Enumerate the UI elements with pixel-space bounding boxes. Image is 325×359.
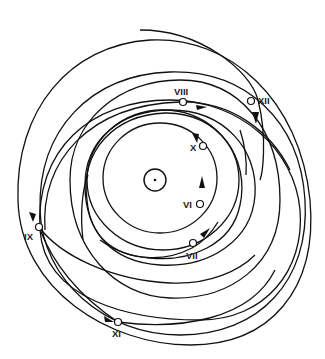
central-body-dot: [154, 179, 157, 182]
orbit-outer-2: [40, 72, 305, 335]
marker-x-circle: [200, 143, 207, 150]
orbit-medium-2: [40, 100, 301, 320]
marker-ix-circle: [36, 224, 43, 231]
marker-ix-label: IX: [24, 231, 34, 242]
arrow-vi: [199, 176, 205, 188]
marker-vii: VII: [186, 240, 198, 262]
orbit-ix-xi: [39, 227, 275, 324]
marker-xii: XII: [248, 95, 270, 106]
marker-xii-label: XII: [258, 95, 270, 106]
orbit-diagram: VIII XII X VI VII IX XI: [0, 0, 325, 359]
arrow-ix: [29, 212, 36, 222]
marker-xii-circle: [248, 98, 255, 105]
marker-vii-circle: [190, 240, 197, 247]
arrow-xii: [252, 112, 259, 124]
arrow-viii: [196, 105, 207, 110]
marker-viii-circle: [180, 99, 187, 106]
marker-xi-circle: [115, 319, 122, 326]
orbit-ix-lower: [39, 227, 255, 283]
orbit-inner-1: [103, 123, 217, 233]
marker-vi: VI: [183, 199, 204, 210]
orbit-stub-2: [240, 130, 246, 175]
marker-vii-label: VII: [186, 250, 198, 261]
marker-x-label: X: [190, 142, 197, 153]
marker-xi: XI: [112, 319, 122, 340]
marker-vi-circle: [197, 201, 204, 208]
marker-xi-label: XI: [112, 328, 121, 339]
marker-vi-label: VI: [183, 199, 192, 210]
marker-x: X: [190, 142, 207, 153]
marker-viii-label: VIII: [174, 86, 188, 97]
orbit-outer-1: [18, 40, 311, 345]
